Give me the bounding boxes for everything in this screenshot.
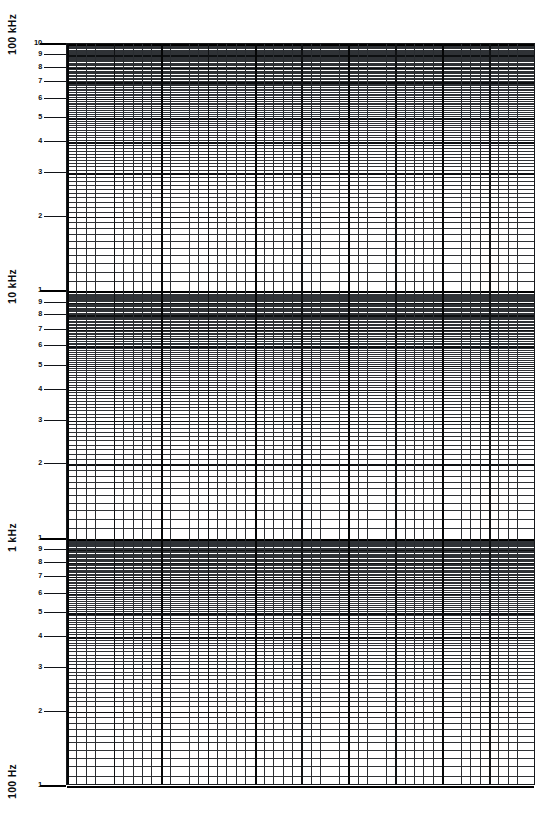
gridline-major bbox=[67, 366, 534, 368]
gridline-minor bbox=[67, 372, 534, 373]
gridline-major bbox=[67, 390, 534, 392]
gridline-minor bbox=[67, 148, 534, 149]
gridline-minor bbox=[67, 382, 534, 383]
gridline-minor bbox=[67, 603, 534, 604]
gridline-minor bbox=[67, 470, 534, 471]
gridline-minor bbox=[67, 454, 534, 455]
gridline-minor bbox=[67, 410, 534, 411]
gridline-minor bbox=[67, 560, 534, 561]
gridline-minor bbox=[67, 338, 534, 339]
gridline-minor bbox=[67, 651, 534, 652]
gridline-minor bbox=[67, 387, 534, 388]
gridline-minor bbox=[67, 65, 534, 66]
axis-tick-label: 2 bbox=[38, 707, 42, 714]
gridline-major bbox=[67, 346, 534, 348]
gridline-minor bbox=[67, 310, 534, 311]
gridline-minor bbox=[67, 622, 534, 623]
gridline-minor bbox=[67, 611, 534, 612]
gridline-minor bbox=[67, 609, 534, 610]
gridline-minor bbox=[67, 212, 534, 213]
gridline-minor bbox=[67, 432, 534, 433]
gridline-minor bbox=[67, 364, 534, 365]
gridline-minor bbox=[67, 294, 534, 295]
gridline-minor bbox=[67, 348, 534, 349]
axis-decade-label: 100 kHz bbox=[6, 14, 18, 55]
gridline-minor bbox=[67, 127, 534, 128]
gridline-minor bbox=[67, 750, 534, 751]
gridline-minor bbox=[67, 503, 534, 504]
gridline-minor bbox=[67, 324, 534, 325]
gridline-minor bbox=[67, 318, 534, 319]
gridline-minor bbox=[67, 688, 534, 689]
gridline-minor bbox=[67, 314, 534, 315]
gridline-minor bbox=[67, 380, 534, 381]
gridline-minor bbox=[67, 692, 534, 693]
gridline-minor bbox=[67, 92, 534, 93]
gridline-minor bbox=[67, 301, 534, 302]
gridline-minor bbox=[67, 81, 534, 82]
gridline-major bbox=[67, 118, 534, 120]
gridline-minor bbox=[67, 424, 534, 425]
gridline-major bbox=[67, 786, 534, 788]
axis-tick-decade bbox=[40, 290, 66, 292]
gridline-minor bbox=[67, 568, 534, 569]
gridline-minor bbox=[67, 675, 534, 676]
gridline-minor bbox=[67, 627, 534, 628]
gridline-minor bbox=[67, 552, 534, 553]
gridline-minor bbox=[67, 114, 534, 115]
axis-tick bbox=[44, 420, 66, 421]
gridline-minor bbox=[67, 90, 534, 91]
gridline-minor bbox=[67, 305, 534, 306]
gridline-major bbox=[67, 55, 534, 57]
gridline-major bbox=[67, 594, 534, 596]
gridline-minor bbox=[67, 664, 534, 665]
gridline-minor bbox=[67, 170, 534, 171]
gridline-minor bbox=[67, 643, 534, 644]
gridline-minor bbox=[67, 548, 534, 549]
gridline-minor bbox=[67, 570, 534, 571]
axis-tick bbox=[44, 463, 66, 464]
gridline-minor bbox=[67, 341, 534, 342]
gridline-major bbox=[67, 303, 534, 305]
gridline-minor bbox=[67, 398, 534, 399]
gridline-minor bbox=[67, 661, 534, 662]
gridline-minor bbox=[67, 595, 534, 596]
gridline-minor bbox=[67, 331, 534, 332]
axis-tick-decade bbox=[40, 43, 66, 45]
gridline-minor bbox=[67, 557, 534, 558]
axis-tick bbox=[44, 172, 66, 173]
gridline-minor bbox=[67, 742, 534, 743]
gridline-minor bbox=[67, 72, 534, 73]
gridline-minor bbox=[67, 519, 534, 520]
gridline-minor bbox=[67, 272, 534, 273]
gridline-minor bbox=[67, 296, 534, 297]
gridline-minor bbox=[67, 53, 534, 54]
gridline-major bbox=[67, 464, 534, 466]
gridline-minor bbox=[67, 706, 534, 707]
axis-decade-label: 100 Hz bbox=[6, 764, 18, 799]
axis-tick-label: 5 bbox=[38, 361, 42, 368]
gridline-minor bbox=[67, 407, 534, 408]
gridline-major bbox=[67, 712, 534, 714]
gridline-major bbox=[67, 173, 534, 175]
gridline-minor bbox=[67, 85, 534, 86]
axis-tick bbox=[44, 54, 66, 55]
gridline-minor bbox=[67, 47, 534, 48]
gridline-minor bbox=[67, 697, 534, 698]
gridline-minor bbox=[67, 599, 534, 600]
axis-tick-label: 7 bbox=[38, 77, 42, 84]
gridline-minor bbox=[67, 736, 534, 737]
gridline-minor bbox=[67, 679, 534, 680]
axis-tick-label: 1 bbox=[38, 534, 42, 542]
axis-tick-label: 8 bbox=[38, 558, 42, 565]
gridline-minor bbox=[67, 78, 534, 79]
gridline-minor bbox=[67, 137, 534, 138]
gridline-minor bbox=[67, 645, 534, 646]
gridline-minor bbox=[67, 334, 534, 335]
gridline-minor bbox=[67, 67, 534, 68]
gridline-minor bbox=[67, 300, 534, 301]
gridline-minor bbox=[67, 587, 534, 588]
axis-tick-label: 7 bbox=[38, 325, 42, 332]
gridline-minor bbox=[67, 377, 534, 378]
gridline-minor bbox=[67, 572, 534, 573]
